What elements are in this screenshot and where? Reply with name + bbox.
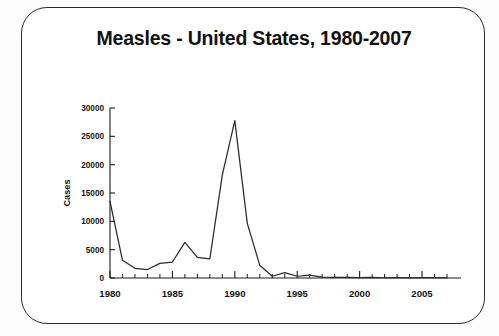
x-axis-tick-labels: 198019851990199520002005: [99, 288, 433, 299]
measles-line-chart: 300002500020000150001000050000 198019851…: [52, 80, 462, 310]
y-axis-ticks: [110, 108, 115, 278]
y-tick-label: 20000: [81, 161, 104, 170]
y-tick-label: 30000: [81, 104, 104, 113]
x-tick-label: 1980: [99, 288, 120, 299]
y-tick-label: 5000: [86, 246, 105, 255]
x-tick-label: 2005: [411, 288, 433, 299]
x-tick-label: 1990: [224, 288, 245, 299]
x-tick-label: 2000: [349, 288, 370, 299]
x-tick-label: 1985: [162, 288, 184, 299]
y-tick-label: 0: [99, 274, 104, 283]
rounded-slide-card: Measles - United States, 1980-2007 30000…: [21, 7, 485, 324]
slide-canvas: Measles - United States, 1980-2007 30000…: [0, 0, 499, 336]
chart-svg: 300002500020000150001000050000 198019851…: [52, 80, 462, 310]
y-tick-label: 25000: [81, 132, 104, 141]
y-tick-label: 10000: [81, 217, 104, 226]
y-tick-label: 15000: [81, 189, 104, 198]
y-axis-tick-labels: 300002500020000150001000050000: [81, 104, 104, 283]
y-axis-title: Cases: [62, 179, 72, 206]
x-tick-label: 1995: [287, 288, 309, 299]
cases-series-line: [110, 121, 447, 278]
page-title: Measles - United States, 1980-2007: [22, 27, 486, 50]
